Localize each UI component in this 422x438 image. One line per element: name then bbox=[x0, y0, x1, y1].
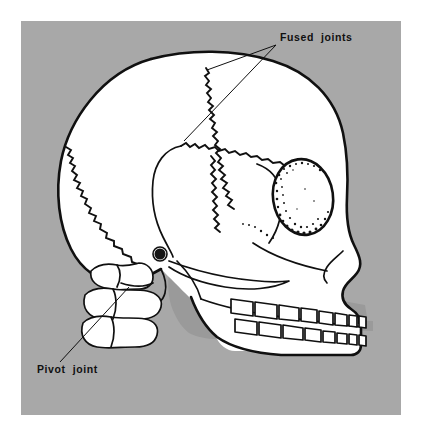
tooth-upper-3 bbox=[279, 305, 299, 321]
tooth-upper-1 bbox=[231, 299, 253, 316]
tooth-lower-6 bbox=[337, 333, 347, 344]
vertebra-3-fill bbox=[82, 316, 158, 348]
tooth-upper-6 bbox=[335, 313, 347, 326]
tooth-lower-5 bbox=[323, 331, 335, 343]
tooth-lower-7 bbox=[349, 334, 357, 345]
tooth-lower-3 bbox=[283, 325, 303, 340]
figure-root: Fused joints Pivot joint bbox=[0, 0, 422, 438]
tooth-upper-4 bbox=[301, 308, 317, 323]
fused-joints-label: Fused joints bbox=[280, 31, 353, 43]
pivot-joint-label: Pivot joint bbox=[37, 363, 98, 375]
diagram-panel: Fused joints Pivot joint bbox=[21, 21, 401, 415]
tooth-lower-8 bbox=[359, 335, 366, 346]
tooth-upper-7 bbox=[349, 315, 357, 327]
tooth-lower-1 bbox=[235, 319, 257, 335]
tooth-lower-4 bbox=[305, 328, 321, 342]
tooth-lower-2 bbox=[259, 322, 281, 338]
tooth-upper-8 bbox=[359, 316, 366, 328]
skull-diagram-svg: Fused joints Pivot joint bbox=[21, 21, 401, 415]
ear-canal-icon bbox=[155, 249, 166, 260]
vertebra-2-fill bbox=[84, 288, 161, 320]
cervical-vertebrae bbox=[82, 263, 162, 348]
tooth-upper-5 bbox=[319, 311, 333, 325]
tooth-upper-2 bbox=[255, 302, 277, 319]
